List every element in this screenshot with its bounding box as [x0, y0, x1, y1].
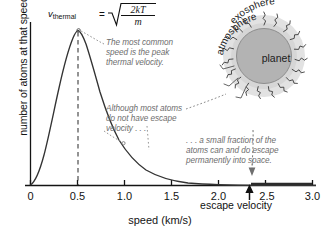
annotation-escaping-fraction: . . . a small fraction of the atoms can …: [186, 136, 290, 165]
most-atoms-marker-dot: [122, 142, 125, 145]
equation-equals-sign: =: [99, 9, 105, 20]
thermal-subscript: thermal: [53, 13, 76, 20]
x-tick-label-0: 0: [17, 190, 45, 202]
planet-label: planet: [248, 52, 304, 64]
x-axis-title: speed (km/s): [0, 214, 320, 226]
equation-numerator: 2kT: [121, 4, 155, 16]
annotation-peak-thermal-velocity: The most common speed is the peak therma…: [106, 38, 190, 67]
y-axis-title: number of atoms at that speed: [17, 0, 29, 141]
thermal-velocity-symbol: vthermal: [48, 8, 76, 20]
equation-fraction: 2kT m: [121, 4, 155, 27]
escape-velocity-pointer-arrowhead: [249, 168, 256, 177]
equation-denominator: m: [121, 16, 155, 27]
escape-velocity-caption: escape velocity: [200, 199, 272, 211]
x-tick-label-2: 1.0: [111, 190, 139, 202]
annotation-most-atoms: Although most atoms do not have escape v…: [106, 104, 186, 133]
x-tick-label-1: 0.5: [64, 190, 92, 202]
x-tick-label-3: 1.5: [158, 190, 186, 202]
x-tick-label-6: 3.0: [299, 190, 325, 202]
planet-to-curve-leader: [186, 94, 226, 109]
